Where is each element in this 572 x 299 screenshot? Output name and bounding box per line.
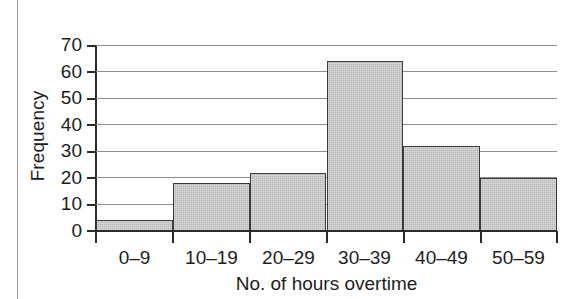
gridline-70 [96,45,557,46]
x-tick-mark-2 [249,231,251,243]
x-label-0-9: 0–9 [96,247,173,269]
y-tick-label-50: 50 [42,87,82,109]
y-tick-label-30: 30 [42,140,82,162]
y-tick-label-60: 60 [42,61,82,83]
x-tick-mark-5 [480,231,482,243]
bar-10-19 [173,183,250,231]
x-tick-mark-4 [403,231,405,243]
y-tick-label-10: 10 [42,193,82,215]
y-tick-label-20: 20 [42,167,82,189]
y-tick-label-70: 70 [42,34,82,56]
x-tick-mark-3 [326,231,328,243]
x-tick-mark-1 [172,231,174,243]
x-label-30-39: 30–39 [326,247,403,269]
x-tick-mark-0 [95,231,97,243]
x-axis-title: No. of hours overtime [96,273,557,295]
histogram-chart: Frequency 70 60 50 40 30 20 10 0 [0,0,572,299]
x-label-50-59: 50–59 [480,247,557,269]
bar-30-39 [327,61,404,231]
bar-20-29 [250,173,327,232]
x-tick-mark-6 [556,231,558,243]
page-edge-line [17,0,18,299]
bar-50-59 [480,178,557,231]
x-label-20-29: 20–29 [250,247,327,269]
plot-area [96,45,557,231]
y-tick-label-0: 0 [42,220,82,242]
x-label-10-19: 10–19 [173,247,250,269]
x-label-40-49: 40–49 [403,247,480,269]
bar-40-49 [403,146,480,231]
y-tick-label-40: 40 [42,114,82,136]
